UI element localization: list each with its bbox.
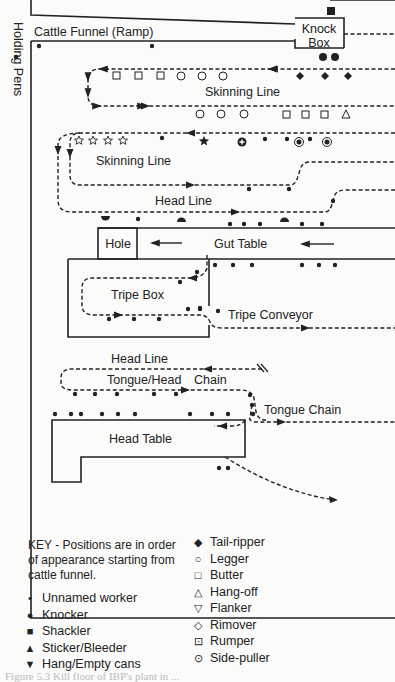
unnamed-worker bbox=[226, 466, 230, 470]
tongue-head-label: Tongue/Head bbox=[107, 373, 181, 387]
unnamed-worker bbox=[226, 412, 230, 416]
unnamed-worker bbox=[198, 306, 202, 310]
key-item-rumper: ⊡Rumper bbox=[190, 633, 270, 650]
holding-pens-label: Holding Pens bbox=[11, 22, 25, 96]
tail-ripper-symbol bbox=[296, 72, 304, 80]
shackler-icon: ■ bbox=[22, 623, 38, 640]
key-item-hang-off: △Hang-off bbox=[190, 584, 270, 601]
arrow-right bbox=[186, 182, 195, 189]
unnamed-worker bbox=[287, 187, 291, 191]
unnamed-worker bbox=[107, 317, 111, 321]
chain-label: Chain bbox=[194, 373, 227, 387]
tripe-conveyor-label: Tripe Conveyor bbox=[228, 308, 313, 322]
tongue-chain-label: Tongue Chain bbox=[264, 403, 341, 417]
tail-ripper-icon: ◆ bbox=[190, 534, 206, 551]
unnamed-worker bbox=[242, 222, 246, 226]
head-line-1-label: Head Line bbox=[155, 194, 212, 208]
unnamed-worker bbox=[79, 412, 83, 416]
flow-skinning-line-2-outer bbox=[58, 133, 395, 212]
butter-symbol bbox=[113, 72, 120, 79]
unnamed-worker bbox=[320, 222, 324, 226]
unnamed-worker bbox=[308, 137, 312, 141]
building-wall-left bbox=[31, 41, 395, 618]
arrow-left bbox=[218, 423, 227, 430]
butter-symbol bbox=[302, 111, 309, 118]
unnamed-worker bbox=[285, 137, 289, 141]
arrow-right bbox=[329, 496, 338, 503]
arrow-down bbox=[67, 149, 74, 158]
key-right-column: ◆Tail-ripper ○Legger □Butter △Hang-off ▽… bbox=[190, 534, 270, 666]
unnamed-worker bbox=[73, 392, 77, 396]
unnamed-worker bbox=[250, 263, 254, 267]
legger-symbol bbox=[196, 110, 204, 118]
target-symbol bbox=[323, 138, 332, 147]
unnamed-worker bbox=[217, 466, 221, 470]
unnamed-worker bbox=[53, 412, 57, 416]
unnamed-worker bbox=[231, 263, 235, 267]
unnamed-worker bbox=[136, 217, 140, 221]
rimover-icon: ◇ bbox=[190, 617, 206, 634]
butter-symbol bbox=[135, 72, 142, 79]
arrow-left bbox=[268, 66, 277, 73]
key-item-side-puller: ⊙Side-puller bbox=[190, 650, 270, 667]
key-item-rimover: ◇Rimover bbox=[190, 617, 270, 634]
skinning-line-1-workers-top bbox=[113, 72, 227, 80]
arrow-right bbox=[231, 209, 240, 216]
legger-symbol bbox=[177, 72, 185, 80]
unnamed-worker bbox=[100, 412, 104, 416]
figure-caption: Figure 5.3 Kill floor of IBP's plant in … bbox=[5, 670, 179, 682]
unnamed-worker bbox=[14, 55, 18, 59]
key-item-butter: □Butter bbox=[190, 567, 270, 584]
arrow-left bbox=[188, 275, 197, 282]
hole-label: Hole bbox=[105, 237, 131, 251]
flow-head-table-exit bbox=[225, 457, 335, 500]
head-table-label: Head Table bbox=[109, 432, 172, 446]
cattle-funnel-label: Cattle Funnel (Ramp) bbox=[34, 25, 154, 39]
skinning-line-2-label: Skinning Line bbox=[96, 154, 171, 168]
unnamed-worker bbox=[150, 44, 154, 48]
key-item-knocker: ●Knocker bbox=[22, 607, 141, 624]
knock-box-label-2: Box bbox=[308, 36, 330, 50]
arrow-right bbox=[277, 419, 286, 426]
unnamed-worker bbox=[333, 263, 337, 267]
unnamed-worker bbox=[132, 317, 136, 321]
flanker-icon: ▽ bbox=[190, 600, 206, 617]
unnamed-worker bbox=[178, 280, 182, 284]
funnel-wall-top bbox=[31, 0, 295, 24]
head-line-2-label: Head Line bbox=[111, 352, 168, 366]
unnamed-worker bbox=[133, 412, 137, 416]
key-item-sticker-bleeder: ▲Sticker/Bleeder bbox=[22, 640, 141, 657]
butter-symbol bbox=[321, 111, 328, 118]
flow-head-table-in bbox=[214, 420, 245, 426]
tail-ripper-symbol bbox=[344, 72, 352, 80]
chain-break-mark bbox=[257, 364, 268, 372]
legger-symbol bbox=[198, 72, 206, 80]
unnamed-worker bbox=[263, 137, 267, 141]
knock-box-label-1: Knock bbox=[302, 22, 337, 36]
butter-symbol bbox=[157, 72, 164, 79]
arrow-left bbox=[203, 366, 212, 373]
arrow-right bbox=[181, 387, 190, 394]
key-item-shackler: ■Shackler bbox=[22, 623, 141, 640]
key-intro: KEY - Positions are in order of appearan… bbox=[28, 538, 188, 583]
unnamed-worker bbox=[157, 317, 161, 321]
arrow-right bbox=[141, 103, 150, 110]
unnamed-worker bbox=[116, 412, 120, 416]
arrow-left bbox=[186, 130, 195, 137]
skinning-line-1-workers-bottom bbox=[196, 110, 350, 118]
hang-off-icon: △ bbox=[190, 584, 206, 601]
unnamed-worker bbox=[69, 412, 73, 416]
unnamed-worker-icon: • bbox=[22, 590, 38, 607]
tail-ripper-symbols bbox=[296, 72, 352, 80]
knocker-symbol bbox=[319, 53, 327, 61]
star-symbols bbox=[75, 136, 128, 144]
star-filled-symbol bbox=[199, 136, 209, 145]
sticker-bleeder-icon: ▲ bbox=[22, 640, 38, 657]
unnamed-worker bbox=[216, 309, 220, 313]
unnamed-worker bbox=[258, 222, 262, 226]
tail-ripper-symbol bbox=[321, 72, 329, 80]
target-symbol bbox=[295, 138, 304, 147]
arrow-right bbox=[301, 325, 310, 332]
unnamed-worker bbox=[160, 136, 164, 140]
unnamed-worker bbox=[174, 392, 178, 396]
